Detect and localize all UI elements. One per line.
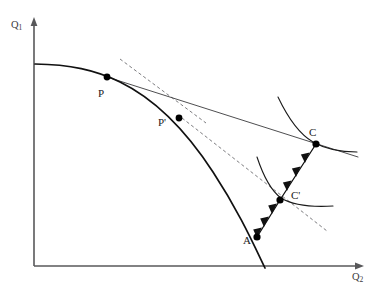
trade-vector-arrowhead (292, 166, 301, 177)
production-possibility-frontier (35, 64, 265, 268)
point-dot-P[interactable] (104, 74, 111, 81)
trade-vector-arrow-chain (253, 144, 316, 238)
points-group (104, 74, 320, 241)
indifference-curves-group (257, 97, 357, 206)
x-axis-label: Q2 (352, 272, 363, 283)
diagram-canvas (0, 0, 378, 298)
y-axis-label-subscript: 1 (19, 23, 23, 32)
point-label-Cprime: C' (291, 190, 300, 201)
point-dot-C[interactable] (312, 140, 319, 147)
point-dot-Cprime[interactable] (276, 196, 283, 203)
dashed-tangent-group (120, 59, 327, 231)
trade-vector-arrowhead (301, 152, 310, 163)
x-axis-label-subscript: 2 (360, 275, 364, 284)
x-axis-arrowhead (355, 263, 364, 270)
x-axis-label-text: Q (352, 271, 360, 282)
point-dot-A[interactable] (253, 233, 260, 240)
autarky-price-tangent-at-Pprime-line (182, 118, 327, 231)
point-dot-Pprime[interactable] (176, 115, 183, 122)
autarky-price-tangent-at-P-line (120, 59, 206, 123)
trade-vector-arrowhead (268, 204, 277, 214)
y-axis-label: Q1 (11, 20, 22, 31)
point-label-P: P (98, 88, 104, 99)
point-label-Pprime: P' (158, 117, 166, 128)
point-label-A: A (243, 235, 251, 246)
ppf-diagram-figure: Q1 Q2 P P' C C' A (0, 0, 378, 298)
y-axis-label-text: Q (11, 19, 19, 30)
trade-vector-arrowhead (260, 217, 269, 227)
y-axis-arrowhead (31, 17, 38, 26)
point-label-C: C (309, 127, 316, 138)
